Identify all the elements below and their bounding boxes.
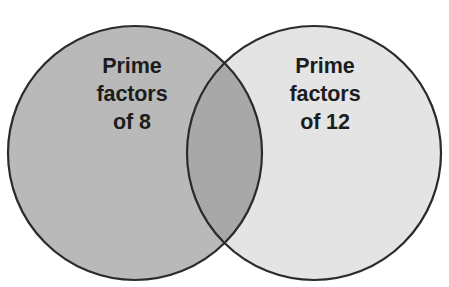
left-set-label: Prime factors of 8 xyxy=(57,52,207,136)
venn-diagram-canvas xyxy=(0,0,449,287)
left-set-label-line-2: factors xyxy=(57,80,207,108)
right-set-label: Prime factors of 12 xyxy=(250,52,400,136)
venn-diagram: Prime factors of 8 Prime factors of 12 xyxy=(0,0,449,287)
left-set-label-line-1: Prime xyxy=(57,52,207,80)
right-set-label-line-2: factors xyxy=(250,80,400,108)
right-set-label-line-1: Prime xyxy=(250,52,400,80)
right-set-label-line-3: of 12 xyxy=(250,108,400,136)
left-set-label-line-3: of 8 xyxy=(57,108,207,136)
